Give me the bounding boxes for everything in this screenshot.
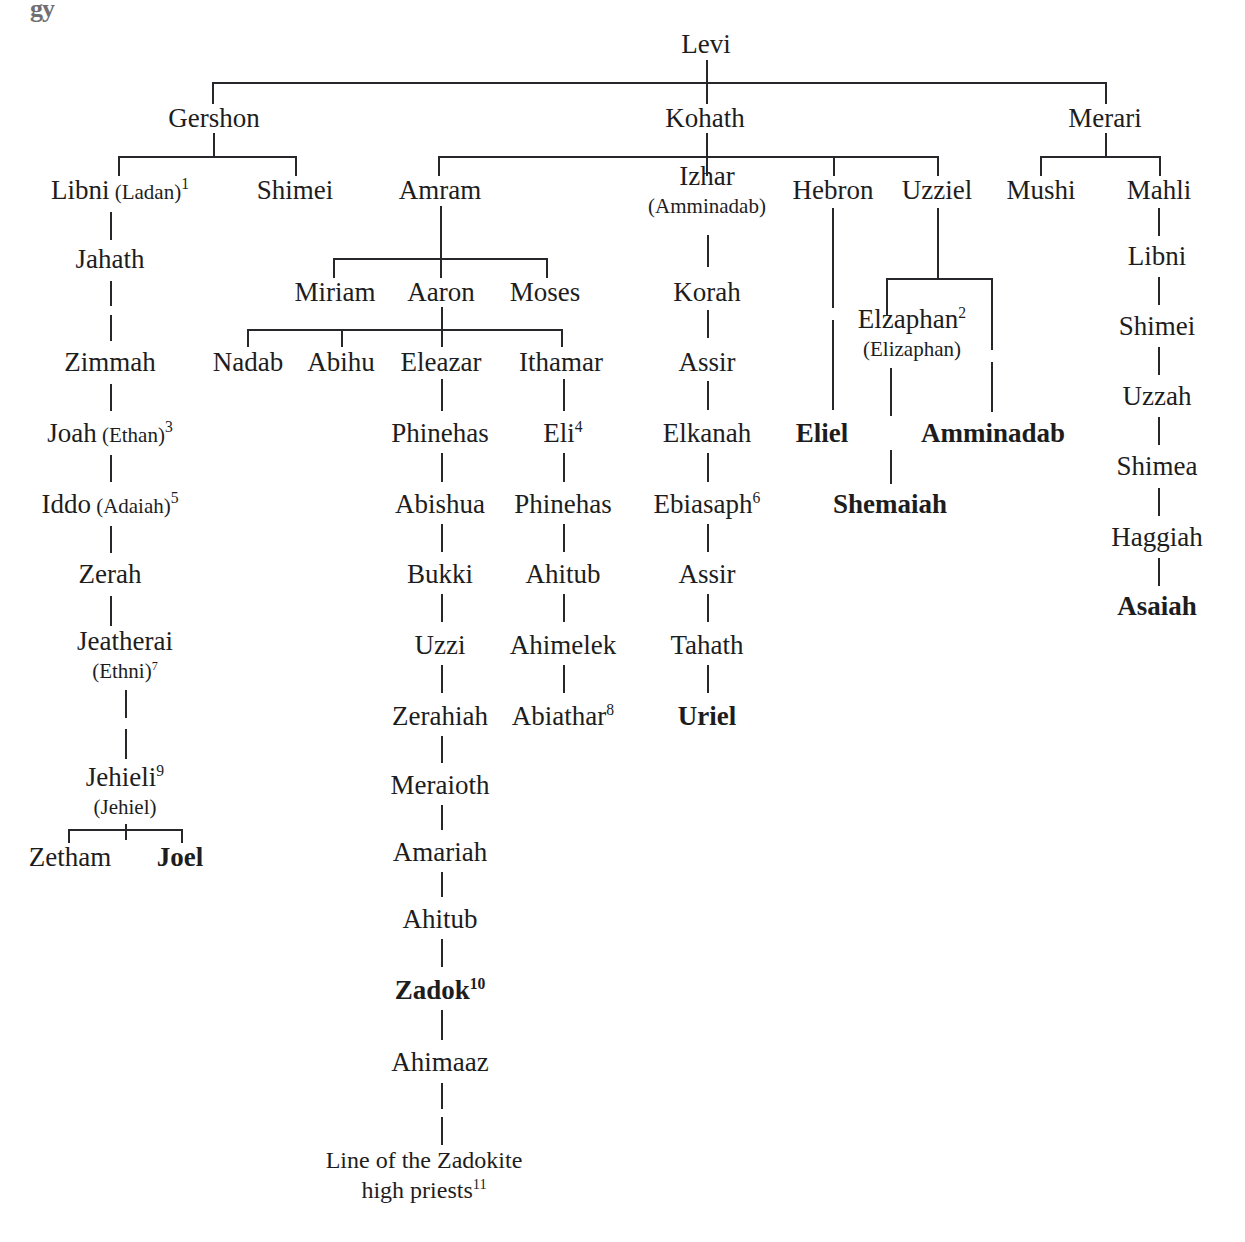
connector-kohath-to-izhar <box>706 156 708 176</box>
connector-merari-stem <box>1105 133 1107 156</box>
connector-merari-to-mahli <box>1159 156 1161 176</box>
connector-aaron-bus <box>247 329 562 331</box>
node-shemaiah: Shemaiah <box>833 490 947 518</box>
connector-jahath-gap-a <box>110 281 112 306</box>
connector-jehieli-stem <box>125 824 127 840</box>
node-kohath: Kohath <box>665 104 744 132</box>
node-amariah: Amariah <box>393 838 487 866</box>
connector-jeatherai-gap-b <box>125 729 127 759</box>
connector-uzziel-stem <box>937 208 939 278</box>
connector-joah-iddo <box>110 455 112 482</box>
connector-uzziel-to-amminadab-upper <box>991 278 993 350</box>
connector-levi-to-kohath <box>706 82 708 104</box>
connector-ahimelek-abiathar <box>563 665 565 693</box>
connector-levi-to-merari <box>1105 82 1107 104</box>
connector-uzzah-shimea <box>1158 417 1160 445</box>
node-phinehas-eleazar: Phinehas <box>391 419 489 447</box>
connector-libni-jahath <box>110 212 112 240</box>
connector-uzzi-zerahiah <box>441 665 443 693</box>
node-shimei-gershon: Shimei <box>257 176 334 204</box>
node-abiathar: Abiathar8 <box>512 702 614 730</box>
connector-ahitub2-ahimelek <box>563 594 565 622</box>
connector-aaron-to-nadab <box>247 329 249 347</box>
connector-kohath-stem <box>706 133 708 156</box>
connector-kohath-to-amram <box>438 156 440 176</box>
node-elzaphan-elizaphan: Elzaphan2 (Elizaphan) <box>858 304 966 362</box>
connector-merari-bus <box>1040 156 1160 158</box>
connector-eleazar-phinehas <box>441 379 443 411</box>
connector-aaron-to-ithamar <box>561 329 563 347</box>
connector-hebron-eliel-upper <box>832 208 834 308</box>
connector-assir2-tahath <box>707 594 709 622</box>
node-eli: Eli4 <box>543 419 582 447</box>
genealogy-chart: gy Levi Gershon Kohath Merari Libni (Lad… <box>0 0 1245 1242</box>
node-ebiasaph: Ebiasaph6 <box>654 490 761 518</box>
node-joel: Joel <box>157 843 204 871</box>
connector-assir-elkanah <box>707 381 709 410</box>
connector-shimea-haggiah <box>1158 488 1160 516</box>
node-mahli: Mahli <box>1127 176 1192 204</box>
node-zadok: Zadok10 <box>395 976 486 1004</box>
node-jeatherai-ethni: Jeatherai (Ethni)7 <box>77 626 173 684</box>
connector-iddo-zerah <box>110 526 112 553</box>
node-ahimelek: Ahimelek <box>510 631 616 659</box>
node-korah: Korah <box>673 278 740 306</box>
node-ahitub-ithamar: Ahitub <box>525 560 600 588</box>
connector-ahimaaz-gap-b <box>441 1117 443 1145</box>
terminal-zadokite-high-priests: Line of the Zadokite high priests11 <box>326 1145 523 1205</box>
node-elkanah: Elkanah <box>663 419 751 447</box>
connector-elkanah-ebiasaph <box>707 453 709 482</box>
connector-mahli-libni <box>1158 208 1160 236</box>
node-uzziel: Uzziel <box>902 176 972 204</box>
connector-jahath-gap-b <box>110 315 112 341</box>
connector-meraioth-amariah <box>441 805 443 830</box>
connector-amram-to-aaron <box>440 258 442 278</box>
node-merari: Merari <box>1068 104 1141 132</box>
connector-zimmah-joah <box>110 384 112 411</box>
node-ahitub-eleazar: Ahitub <box>402 905 477 933</box>
connector-amram-stem <box>440 206 442 258</box>
node-nadab: Nadab <box>213 348 283 376</box>
node-miriam: Miriam <box>295 278 376 306</box>
connector-jehieli-to-zetham <box>68 829 70 843</box>
connector-haggiah-asaiah <box>1158 558 1160 586</box>
node-mushi: Mushi <box>1006 176 1075 204</box>
connector-gershon-to-shimei <box>295 156 297 176</box>
connector-tahath-uriel <box>707 665 709 693</box>
connector-ahimaaz-gap-a <box>441 1083 443 1109</box>
node-joah-ethan: Joah (Ethan)3 <box>47 419 173 447</box>
node-levi: Levi <box>681 30 730 58</box>
node-gershon: Gershon <box>168 104 259 132</box>
node-ahimaaz: Ahimaaz <box>391 1048 488 1076</box>
node-iddo-adaiah: Iddo (Adaiah)5 <box>41 490 178 518</box>
node-assir-1: Assir <box>678 348 735 376</box>
node-shimea: Shimea <box>1117 452 1198 480</box>
connector-shimei-uzzah <box>1158 347 1160 375</box>
connector-jehieli-bus <box>68 829 182 831</box>
node-uzzah: Uzzah <box>1123 382 1192 410</box>
connector-aaron-to-eleazar <box>441 329 443 347</box>
connector-kohath-to-uzziel <box>937 156 939 176</box>
node-aaron: Aaron <box>407 278 474 306</box>
connector-uzziel-to-elzaphan <box>886 278 888 316</box>
node-zimmah: Zimmah <box>64 348 155 376</box>
connector-uzziel-bus <box>886 278 991 280</box>
connector-gershon-bus <box>118 156 296 158</box>
connector-merari-to-mushi <box>1040 156 1042 176</box>
connector-ebiasaph-assir2 <box>707 524 709 552</box>
connector-gershon-stem <box>213 133 215 156</box>
connector-izhar-korah <box>707 235 709 267</box>
connector-ithamar-eli <box>563 379 565 411</box>
connector-kohath-bus <box>438 156 938 158</box>
connector-aaron-stem <box>441 307 443 329</box>
connector-uzziel-to-amminadab-lower <box>991 362 993 412</box>
connector-levi-stem <box>706 60 708 82</box>
node-abihu: Abihu <box>307 348 375 376</box>
connector-abishua-bukki <box>441 524 443 552</box>
node-tahath: Tahath <box>670 631 743 659</box>
node-haggiah: Haggiah <box>1111 523 1202 551</box>
connector-amram-to-moses <box>546 258 548 278</box>
connector-bukki-uzzi <box>441 594 443 622</box>
node-jehieli-jehiel: Jehieli9 (Jehiel) <box>86 762 164 820</box>
connector-kohath-to-hebron <box>833 156 835 176</box>
